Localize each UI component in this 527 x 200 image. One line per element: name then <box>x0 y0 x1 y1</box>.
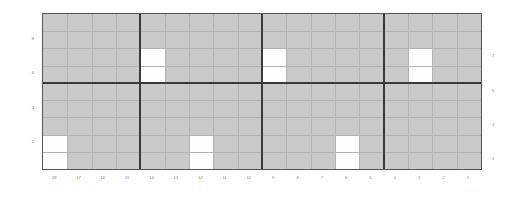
y-tick-label-left: 4 <box>32 106 34 110</box>
plot-area <box>42 13 482 170</box>
x-tick-label: 3 <box>418 176 420 180</box>
heatmap-cell <box>335 152 359 169</box>
gridline-vertical <box>189 14 190 169</box>
y-tick-label-left: 6 <box>32 71 34 75</box>
heatmap-cell <box>189 152 213 169</box>
gridline-vertical <box>238 14 239 169</box>
x-tick-label: 9 <box>272 176 274 180</box>
y-tick-label-right: 7 <box>492 54 494 58</box>
y-tick-label-left: 2 <box>32 140 34 144</box>
x-tick-label: 18 <box>52 176 56 180</box>
heatmap-cell <box>262 66 286 83</box>
x-tick-label: 11 <box>222 176 226 180</box>
heatmap-cell <box>189 135 213 152</box>
x-tick-label: 7 <box>321 176 323 180</box>
x-tick-label: 1 <box>467 176 469 180</box>
x-tick-label: 6 <box>345 176 347 180</box>
x-tick-label: 13 <box>174 176 178 180</box>
heatmap-cell <box>140 48 164 65</box>
x-tick-label: 14 <box>149 176 153 180</box>
x-tick-label: 17 <box>76 176 80 180</box>
gridline-vertical <box>213 14 214 169</box>
gridline-vertical <box>116 14 117 169</box>
gridline-vertical <box>359 14 360 169</box>
x-tick-label: 2 <box>442 176 444 180</box>
heatmap-cell <box>262 48 286 65</box>
block-separator-horizontal <box>43 82 481 84</box>
gridline-vertical <box>67 14 68 169</box>
gridline-vertical <box>457 14 458 169</box>
gridline-vertical <box>335 14 336 169</box>
block-separator-vertical <box>261 14 263 169</box>
x-tick-label: 10 <box>247 176 251 180</box>
x-tick-label: 5 <box>369 176 371 180</box>
heatmap-cell <box>408 48 432 65</box>
heatmap-cell <box>408 66 432 83</box>
heatmap-cell <box>335 135 359 152</box>
x-tick-label: 8 <box>296 176 298 180</box>
gridline-vertical <box>165 14 166 169</box>
y-tick-label-right: 1 <box>492 157 494 161</box>
cell-layer <box>43 14 481 169</box>
block-separator-vertical <box>139 14 141 169</box>
x-tick-label: 12 <box>198 176 202 180</box>
heatmap-cell <box>140 66 164 83</box>
gridline-vertical <box>432 14 433 169</box>
gridline-vertical <box>286 14 287 169</box>
y-tick-label-left: 8 <box>32 37 34 41</box>
x-axis-ticks: 181716151413121110987654321 <box>42 176 482 190</box>
heatmap-cell <box>43 135 67 152</box>
gridline-vertical <box>311 14 312 169</box>
heatmap-cell <box>43 152 67 169</box>
y-axis-left-ticks: 8642 <box>0 13 38 170</box>
gridline-vertical <box>408 14 409 169</box>
x-tick-label: 15 <box>125 176 129 180</box>
x-tick-label: 4 <box>394 176 396 180</box>
y-tick-label-right: 5 <box>492 89 494 93</box>
block-separator-vertical <box>383 14 385 169</box>
x-tick-label: 16 <box>101 176 105 180</box>
y-tick-label-right: 3 <box>492 123 494 127</box>
y-axis-right-ticks: 7531 <box>487 13 525 170</box>
gridline-vertical <box>92 14 93 169</box>
heatmap-figure: 8642 7531 181716151413121110987654321 <box>0 0 527 200</box>
